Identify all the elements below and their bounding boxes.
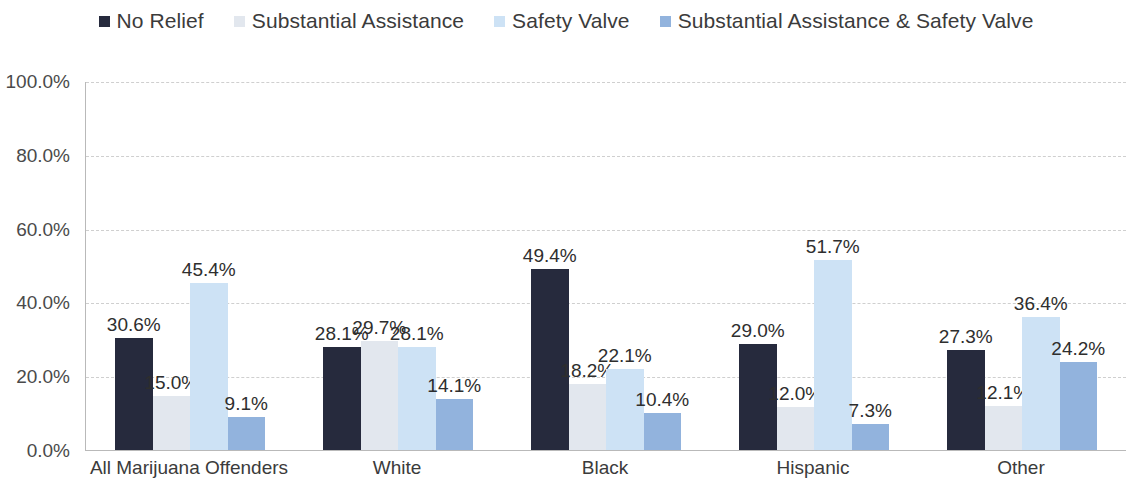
bar[interactable] <box>777 407 815 451</box>
bar-value-label: 14.1% <box>427 376 481 395</box>
bar-value-label: 7.3% <box>849 401 892 420</box>
x-axis-label-cell: White <box>293 451 501 485</box>
bar[interactable] <box>814 260 852 451</box>
y-axis-labels: 100.0%80.0%60.0%40.0%20.0%0.0% <box>0 42 78 485</box>
bar-slot: 9.1% <box>228 82 266 451</box>
bar-groups: 30.6%15.0%45.4%9.1%28.1%29.7%28.1%14.1%4… <box>86 82 1126 451</box>
bar[interactable] <box>1060 362 1098 451</box>
y-axis-tick-label: 0.0% <box>27 440 70 462</box>
bar-slot: 7.3% <box>852 82 890 451</box>
bar-group: 27.3%12.1%36.4%24.2% <box>918 82 1126 451</box>
legend-item[interactable]: No Relief <box>99 9 204 33</box>
bar[interactable] <box>190 283 228 451</box>
bar-group-bars: 30.6%15.0%45.4%9.1% <box>115 82 265 451</box>
bar-slot: 28.1% <box>323 82 361 451</box>
bar-slot: 24.2% <box>1060 82 1098 451</box>
y-axis-tick-label: 20.0% <box>16 366 70 388</box>
y-axis-tick-label: 80.0% <box>16 145 70 167</box>
bar-slot: 12.0% <box>777 82 815 451</box>
plot-area: 30.6%15.0%45.4%9.1%28.1%29.7%28.1%14.1%4… <box>85 82 1126 451</box>
bar-value-label: 9.1% <box>225 394 268 413</box>
bar-group: 28.1%29.7%28.1%14.1% <box>294 82 502 451</box>
bar[interactable] <box>644 413 682 451</box>
legend-item-label: Substantial Assistance & Safety Valve <box>678 9 1034 33</box>
plot-wrapper: 100.0%80.0%60.0%40.0%20.0%0.0% 30.6%15.0… <box>0 42 1132 485</box>
x-axis-label-cell: Hispanic <box>709 451 917 485</box>
bar[interactable] <box>115 338 153 451</box>
legend-swatch-icon <box>660 16 671 27</box>
x-axis-category-label: All Marijuana Offenders <box>90 457 288 479</box>
bar-slot: 30.6% <box>115 82 153 451</box>
bar[interactable] <box>228 417 266 451</box>
bar[interactable] <box>361 341 399 451</box>
x-axis-category-label: Black <box>582 457 628 479</box>
y-axis-tick-label: 40.0% <box>16 292 70 314</box>
legend-swatch-icon <box>234 16 245 27</box>
legend-item-label: Safety Valve <box>512 9 630 33</box>
bar-group-bars: 49.4%18.2%22.1%10.4% <box>531 82 681 451</box>
x-axis-label-cell: All Marijuana Offenders <box>85 451 293 485</box>
bar[interactable] <box>323 347 361 451</box>
x-axis-category-label: White <box>373 457 422 479</box>
bar-slot: 45.4% <box>190 82 228 451</box>
bar[interactable] <box>436 399 474 451</box>
bar-value-label: 10.4% <box>635 390 689 409</box>
bar-slot: 51.7% <box>814 82 852 451</box>
bar-slot: 29.7% <box>361 82 399 451</box>
bar[interactable] <box>153 396 191 451</box>
legend-swatch-icon <box>99 16 110 27</box>
legend-item[interactable]: Substantial Assistance & Safety Valve <box>660 9 1034 33</box>
bar-slot: 10.4% <box>644 82 682 451</box>
bar[interactable] <box>398 347 436 451</box>
bar-slot: 36.4% <box>1022 82 1060 451</box>
legend-item-label: No Relief <box>117 9 204 33</box>
x-axis-label-cell: Black <box>501 451 709 485</box>
bar-group: 29.0%12.0%51.7%7.3% <box>710 82 918 451</box>
bar-slot: 18.2% <box>569 82 607 451</box>
legend-item-label: Substantial Assistance <box>252 9 464 33</box>
legend-swatch-icon <box>494 16 505 27</box>
bar[interactable] <box>569 384 607 451</box>
x-axis-category-label: Hispanic <box>777 457 850 479</box>
bar-group-bars: 29.0%12.0%51.7%7.3% <box>739 82 889 451</box>
bar[interactable] <box>852 424 890 451</box>
x-axis-category-label: Other <box>997 457 1045 479</box>
x-axis-label-cell: Other <box>917 451 1125 485</box>
bar[interactable] <box>985 406 1023 451</box>
bar-group-bars: 27.3%12.1%36.4%24.2% <box>947 82 1097 451</box>
bar-group-bars: 28.1%29.7%28.1%14.1% <box>323 82 473 451</box>
bar-group: 49.4%18.2%22.1%10.4% <box>502 82 710 451</box>
bar-slot: 14.1% <box>436 82 474 451</box>
x-axis-labels: All Marijuana OffendersWhiteBlackHispani… <box>85 451 1125 485</box>
bar-slot: 49.4% <box>531 82 569 451</box>
bar[interactable] <box>606 369 644 451</box>
bar-value-label: 24.2% <box>1051 339 1105 358</box>
legend-item[interactable]: Safety Valve <box>494 9 630 33</box>
legend-item[interactable]: Substantial Assistance <box>234 9 464 33</box>
bar-slot: 12.1% <box>985 82 1023 451</box>
chart-legend: No ReliefSubstantial AssistanceSafety Va… <box>0 0 1132 42</box>
y-axis-tick-label: 60.0% <box>16 219 70 241</box>
bar-group: 30.6%15.0%45.4%9.1% <box>86 82 294 451</box>
y-axis-tick-label: 100.0% <box>6 71 70 93</box>
bar-chart: No ReliefSubstantial AssistanceSafety Va… <box>0 0 1132 485</box>
